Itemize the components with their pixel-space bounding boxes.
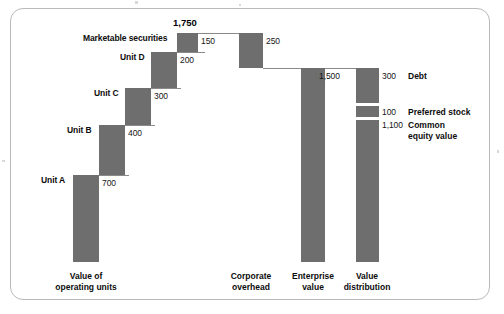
chart-plot-area: 1,750 Marketable securities Unit D Unit … [0,0,504,314]
value-label-common-equity: 1,100 [382,120,403,130]
bar-unit-b [99,125,125,175]
value-label-marketable-securities: 150 [201,36,215,46]
bar-segment-common-equity [356,120,379,262]
connector-line-unit-c [151,88,181,89]
value-label-unit-c: 300 [154,91,168,101]
value-distribution-line2: distribution [344,282,391,292]
common-equity-label-line2: equity value [408,131,457,141]
scan-artifact-speck [135,1,138,4]
connector-line-enterprise-value [325,68,356,69]
connector-line-unit-d [177,52,205,53]
value-distribution-line1: Value [356,271,378,281]
bar-corporate-overhead [239,33,263,68]
series-label-unit-d: Unit D [120,52,144,62]
total-value-label: 1,750 [173,17,197,28]
connector-line-corporate-overhead [263,68,301,69]
bar-enterprise-value [301,68,325,262]
corporate-overhead-line2: overhead [232,282,270,292]
series-label-preferred-stock: Preferred stock [408,107,470,118]
corporate-overhead-line1: Corporate [231,271,272,281]
bar-unit-c [125,88,151,125]
category-label-operating-units: Value of operating units [36,271,136,292]
series-label-unit-a: Unit A [41,175,65,185]
common-equity-label-line1: Common [408,120,445,130]
series-label-unit-c: Unit C [94,88,118,98]
operating-units-line1: Value of [70,271,103,281]
scan-artifact-speck [2,160,5,162]
connector-line-marketable-securities [198,33,239,34]
bar-marketable-securities [177,33,198,52]
series-label-unit-b: Unit B [67,125,91,135]
enterprise-value-line2: value [302,282,324,292]
category-label-value-distribution: Value distribution [327,271,407,292]
value-label-preferred-stock: 100 [382,107,396,117]
bar-segment-debt [356,68,379,103]
value-label-enterprise-value: 1,500 [319,71,340,81]
waterfall-chart-figure: 1,750 Marketable securities Unit D Unit … [0,0,504,314]
value-label-corporate-overhead: 250 [266,36,280,46]
value-label-unit-b: 400 [128,128,142,138]
operating-units-line2: operating units [55,282,116,292]
connector-line-unit-a [99,175,129,176]
scan-artifact-speck [239,4,241,6]
value-label-debt: 300 [382,71,396,81]
bar-segment-preferred-stock [356,106,379,117]
connector-line-unit-b [125,125,155,126]
scan-artifact-speck [497,150,499,153]
series-label-marketable-securities: Marketable securities [83,33,167,43]
bar-unit-d [151,52,177,88]
bar-unit-a [73,175,99,262]
series-label-debt: Debt [408,71,427,82]
value-label-unit-a: 700 [102,178,116,188]
value-label-unit-d: 200 [180,55,194,65]
series-label-common-equity: Common equity value [408,120,457,141]
